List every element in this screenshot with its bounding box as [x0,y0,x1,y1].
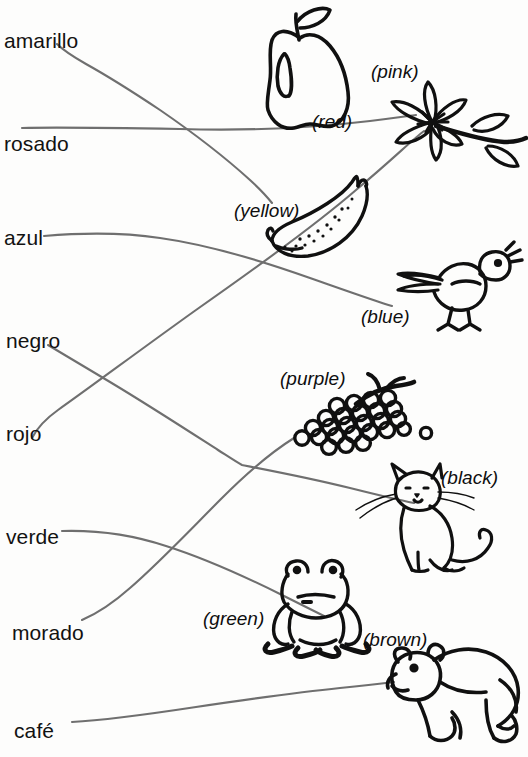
spanish-term-azul[interactable]: azul [4,227,43,248]
english-term-red[interactable]: (red) [312,112,352,131]
spanish-term-rojo[interactable]: rojo [6,423,41,444]
labels-layer: amarillo rosado azul negro rojo verde mo… [0,0,528,757]
spanish-term-amarillo[interactable]: amarillo [4,30,78,51]
spanish-term-rosado[interactable]: rosado [4,133,69,154]
english-term-pink[interactable]: (pink) [371,62,419,81]
english-term-black[interactable]: (black) [441,468,498,487]
english-term-green[interactable]: (green) [203,609,264,628]
spanish-term-negro[interactable]: negro [6,330,60,351]
spanish-term-cafe[interactable]: café [14,720,54,741]
spanish-term-morado[interactable]: morado [12,622,84,643]
spanish-term-verde[interactable]: verde [6,526,59,547]
english-term-purple[interactable]: (purple) [280,369,345,388]
english-term-brown[interactable]: (brown) [363,630,427,649]
english-term-blue[interactable]: (blue) [361,307,410,326]
color-matching-worksheet: amarillo rosado azul negro rojo verde mo… [0,0,528,757]
english-term-yellow[interactable]: (yellow) [234,201,299,220]
